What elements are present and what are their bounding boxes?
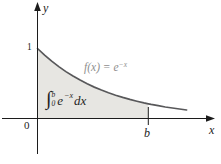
origin-tick-label: 0 (24, 120, 30, 131)
integral-lower-limit: 0 (51, 100, 55, 108)
integral-upper-limit: b (51, 91, 55, 99)
figure-canvas (0, 0, 221, 164)
x-axis-arrow-icon (206, 115, 215, 122)
x-tick-label-b: b (144, 127, 150, 139)
integral-differential: dx (74, 94, 86, 107)
figure: y x 0 1 b f(x) = e−x ∫ b 0 e −x dx (0, 0, 221, 164)
curve-equation-base: f(x) = e (84, 61, 119, 73)
y-axis-label: y (43, 2, 48, 14)
integral-annotation: ∫ b 0 e −x dx (46, 89, 86, 109)
curve-equation-label: f(x) = e−x (84, 61, 127, 74)
integrand-base: e (57, 94, 63, 107)
y-tick-label-1: 1 (27, 43, 32, 53)
y-axis-arrow-icon (34, 2, 41, 11)
x-axis-label: x (209, 124, 214, 136)
curve-equation-exponent: −x (119, 60, 127, 69)
integrand-exponent: −x (64, 92, 73, 100)
